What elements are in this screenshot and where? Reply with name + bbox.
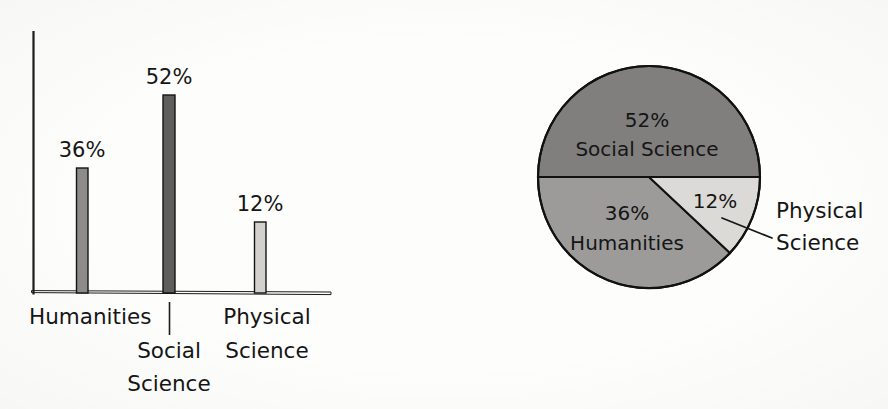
- bar-category-label-social-line1: Social: [137, 338, 201, 363]
- pie-callout-physical-line2: Science: [776, 230, 859, 255]
- bar-category-label-physical-line2: Science: [225, 338, 308, 363]
- pie-label-social-pct: 52%: [625, 108, 669, 132]
- pie-label-physical-pct: 12%: [693, 189, 737, 213]
- bar-category-label-humanities: Humanities: [29, 304, 151, 329]
- bar-category-label-social-line2: Science: [127, 371, 210, 396]
- pie-chart-figure: 52% Social Science 36% Humanities 12% Ph…: [444, 0, 888, 409]
- bar-social-science: [163, 95, 175, 293]
- bar-value-label-physical-science: 12%: [237, 192, 284, 216]
- bar-chart-figure: 36% 52% 12% Humanities Social Science Ph…: [0, 0, 444, 409]
- bar-category-label-physical-line1: Physical: [223, 304, 310, 329]
- bar-chart-panel: 36% 52% 12% Humanities Social Science Ph…: [0, 0, 444, 409]
- bar-value-label-humanities: 36%: [59, 138, 106, 162]
- pie-chart-panel: 52% Social Science 36% Humanities 12% Ph…: [444, 0, 888, 409]
- bar-value-label-social-science: 52%: [146, 65, 193, 89]
- pie-label-social-name: Social Science: [575, 137, 718, 161]
- pie-callout-physical-line1: Physical: [776, 198, 863, 223]
- bar-humanities: [77, 168, 89, 293]
- pie-label-humanities-pct: 36%: [605, 201, 649, 225]
- bar-physical-science: [255, 222, 267, 293]
- pie-label-humanities-name: Humanities: [570, 231, 684, 255]
